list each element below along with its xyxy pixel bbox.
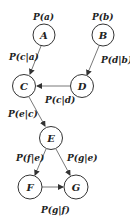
edge-e-g-label: P(g|e) <box>66 153 98 164</box>
edge-b-d <box>87 46 99 75</box>
node-b-label: B <box>98 30 107 41</box>
edge-f-g-label: P(g|f) <box>40 205 70 216</box>
edges <box>29 46 99 187</box>
prior-a-label: P(a) <box>32 12 54 22</box>
node-g-label: G <box>72 182 81 193</box>
node-d-label: D <box>77 81 87 92</box>
edge-d-c-label: P(c|d) <box>44 95 75 106</box>
edge-a-c-label: P(c|a) <box>8 52 39 63</box>
edge-b-d-label: P(d|b) <box>100 55 130 66</box>
edge-c-e-label: P(e|c) <box>7 109 38 120</box>
edge-e-f-label: P(f|e) <box>15 153 44 164</box>
prior-b-label: P(b) <box>91 12 114 22</box>
node-f-label: F <box>25 182 34 193</box>
bayesian-network-diagram: A B C D E F G P(a) P(b) P(c|a) P(d|b) P(… <box>0 0 130 220</box>
node-c-label: C <box>20 81 28 92</box>
node-e-label: E <box>46 133 55 144</box>
node-a-label: A <box>39 30 48 41</box>
